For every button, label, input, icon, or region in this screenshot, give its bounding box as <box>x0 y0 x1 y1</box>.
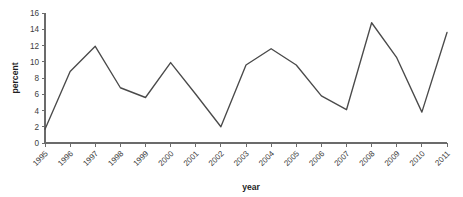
x-axis-tick-label: 2003 <box>232 149 251 168</box>
y-axis-tick-label: 4 <box>34 107 39 116</box>
x-axis-tick-label: 2002 <box>207 149 226 168</box>
y-axis-tick-label: 12 <box>30 42 40 51</box>
y-axis-tick-label: 10 <box>30 58 40 67</box>
x-axis-tick-label: 2009 <box>383 149 402 168</box>
x-axis-tick-label: 2004 <box>257 149 276 168</box>
x-axis-tick-label: 2011 <box>433 149 452 168</box>
y-axis-tick-label: 8 <box>34 74 39 83</box>
x-axis-tick-label: 2006 <box>307 149 326 168</box>
x-axis-tick-label: 1995 <box>31 149 50 168</box>
x-axis-tick-label: 2005 <box>282 149 301 168</box>
y-axis-tick-label: 16 <box>30 9 40 18</box>
y-axis-tick-label: 2 <box>34 123 39 132</box>
x-axis-title: year <box>242 182 260 192</box>
x-axis-tick-label: 1996 <box>56 149 75 168</box>
x-axis-tick-label: 2001 <box>182 149 201 168</box>
chart-plot-area: 0246810121416199519961997199819992000200… <box>0 0 463 197</box>
y-axis-tick-label: 0 <box>34 139 39 148</box>
x-axis-tick-label: 2010 <box>408 149 427 168</box>
x-axis-tick-label: 2007 <box>332 149 351 168</box>
x-axis-tick-label: 1999 <box>131 149 150 168</box>
x-axis-tick-label: 2000 <box>157 149 176 168</box>
x-axis-tick-label: 1997 <box>81 149 100 168</box>
x-axis-tick-label: 1998 <box>106 149 125 168</box>
x-axis-tick-label: 2008 <box>358 149 377 168</box>
y-axis-title: percent <box>10 62 20 93</box>
y-axis-tick-label: 6 <box>34 90 39 99</box>
data-series-line <box>45 23 447 129</box>
line-chart: 0246810121416199519961997199819992000200… <box>0 0 463 197</box>
y-axis-tick-label: 14 <box>30 25 40 34</box>
